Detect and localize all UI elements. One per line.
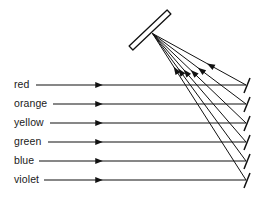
ray-label-green: green (14, 135, 41, 147)
incident-arrow-red (95, 82, 103, 88)
ray-label-blue: blue (14, 154, 34, 166)
diffracted-ray-red (153, 34, 247, 86)
incident-arrow-blue (95, 158, 103, 164)
diffracted-arrow-red (207, 64, 215, 70)
incident-arrow-violet (95, 177, 103, 183)
diffracted-rays-group (153, 34, 247, 181)
grating-group (129, 10, 171, 50)
diagram-canvas: redorangeyellowgreenblueviolet (0, 0, 267, 197)
ray-label-red: red (14, 78, 30, 90)
diffracted-ray-yellow (153, 34, 247, 124)
ray-label-orange: orange (14, 97, 47, 109)
diffraction-grating (129, 10, 171, 50)
diffracted-ray-green (153, 34, 247, 143)
ray-labels-group: redorangeyellowgreenblueviolet (14, 78, 47, 185)
incident-rays-group (36, 82, 246, 183)
endpoint-ticks-group (244, 78, 250, 188)
diffracted-ray-violet (153, 34, 247, 181)
diffracted-arrow-orange (198, 68, 206, 75)
ray-label-violet: violet (14, 173, 39, 185)
incident-arrow-orange (95, 101, 103, 107)
incident-arrow-yellow (95, 120, 103, 126)
incident-arrow-green (95, 139, 103, 145)
ray-label-yellow: yellow (14, 116, 44, 128)
diffraction-grating-diagram: redorangeyellowgreenblueviolet (0, 0, 267, 197)
